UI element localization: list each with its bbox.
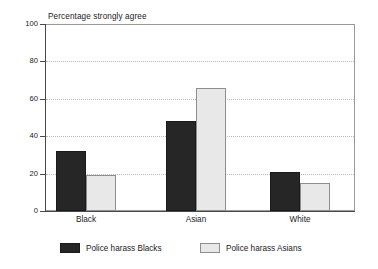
legend-entry-police-harass-blacks[interactable]: Police harass Blacks [60, 243, 162, 253]
y-axis-tick [40, 136, 45, 137]
y-axis-tick [40, 24, 45, 25]
x-axis-category-label: White [260, 215, 340, 224]
y-axis-label: 60 [12, 94, 38, 103]
y-axis-label: 100 [12, 19, 38, 28]
bar [166, 121, 196, 211]
y-axis-tick [40, 61, 45, 62]
chart-title: Percentage strongly agree [48, 12, 147, 21]
legend-label: Police harass Blacks [86, 244, 162, 253]
legend-swatch-icon [60, 243, 80, 253]
x-axis-category-label: Black [46, 215, 126, 224]
y-axis-tick [40, 174, 45, 175]
y-axis-label: 40 [12, 131, 38, 140]
bar [196, 88, 226, 211]
bar [56, 151, 86, 211]
legend-label: Police harass Asians [226, 244, 302, 253]
y-axis-tick [40, 211, 45, 212]
bar-chart: Percentage strongly agree 020406080100 B… [0, 0, 378, 269]
legend-swatch-icon [200, 243, 220, 253]
legend: Police harass Blacks Police harass Asian… [55, 243, 345, 259]
y-axis-line [45, 24, 46, 212]
y-axis-label: 0 [12, 206, 38, 215]
bar [270, 172, 300, 211]
bar [300, 183, 330, 211]
legend-entry-police-harass-asians[interactable]: Police harass Asians [200, 243, 302, 253]
x-axis-line [45, 211, 355, 212]
y-axis-label: 80 [12, 56, 38, 65]
y-axis-tick [40, 99, 45, 100]
y-axis-label: 20 [12, 169, 38, 178]
bar [86, 175, 116, 211]
gridline [46, 61, 354, 62]
x-axis-category-label: Asian [156, 215, 236, 224]
